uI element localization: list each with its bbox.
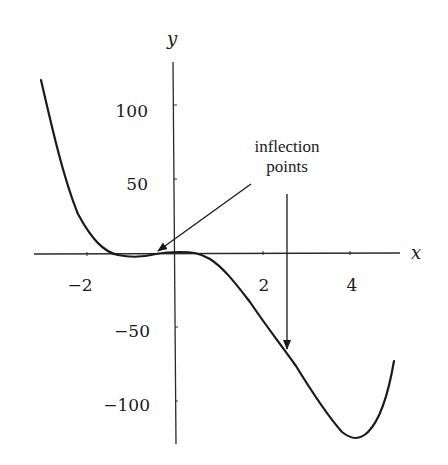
tick-label-x: 2	[259, 275, 270, 295]
tick-label-x: −2	[67, 275, 92, 295]
annotation-text-line2: points	[266, 157, 308, 176]
tick-label-y: −50	[114, 321, 150, 341]
x-axis-label: x	[411, 242, 421, 263]
annotation-text-line1: inflection	[254, 137, 320, 156]
y-axis-label: y	[166, 28, 178, 49]
chart: y x −2 2 4 100 50 −50 −100 inflection po…	[0, 0, 448, 465]
x-axis	[34, 253, 400, 254]
annotation-arrow-left	[158, 184, 251, 251]
tick-label-y: 100	[116, 101, 148, 121]
tick-label-y: 50	[126, 174, 148, 194]
tick-label-x: 4	[347, 275, 358, 295]
function-curve	[41, 80, 394, 438]
tick-label-y: −100	[103, 395, 150, 415]
